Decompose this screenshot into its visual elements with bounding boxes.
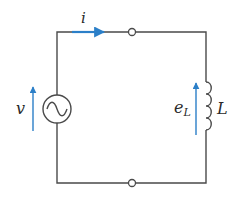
source-voltage-label: v <box>16 99 25 118</box>
inductor-emf-symbol: e <box>174 98 183 117</box>
terminal-node-top <box>129 29 136 36</box>
inductor-emf-label: eL <box>174 98 191 119</box>
inductor-label: L <box>216 99 228 118</box>
wire-right-bottom <box>136 130 207 183</box>
wire-top-right <box>136 32 207 82</box>
wire-bottom-left <box>57 123 129 183</box>
inductor-coil <box>206 82 211 130</box>
inductor-emf-subscript: L <box>182 106 190 119</box>
current-label: i <box>81 9 86 27</box>
wire-top-left <box>57 32 129 95</box>
terminal-node-bottom <box>129 180 136 187</box>
circuit-diagram: i v eL L <box>0 0 249 200</box>
ac-voltage-source <box>43 95 71 123</box>
